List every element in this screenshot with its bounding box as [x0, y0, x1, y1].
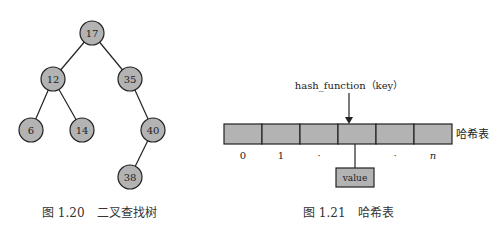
index-label: · — [317, 150, 320, 161]
bst-nodes — [19, 21, 165, 189]
index-label: · — [393, 150, 396, 161]
hash-cell-2 — [300, 124, 338, 144]
arrow-head-icon — [345, 117, 353, 124]
tree-node-label: 35 — [124, 74, 137, 85]
bst-edges — [31, 33, 153, 177]
hash-cell-3 — [338, 124, 376, 144]
figure-caption-bst: 图 1.20 二叉查找树 — [42, 203, 157, 220]
tree-node-label: 40 — [147, 125, 160, 136]
index-label: 0 — [240, 150, 246, 161]
tree-node-label: 14 — [76, 125, 89, 136]
value-label: value — [342, 173, 367, 183]
diagram-canvas: 17 12 35 6 14 40 38 hash_function（key） 哈… — [0, 0, 503, 227]
tree-node-label: 17 — [86, 28, 99, 39]
hash-cell-4 — [376, 124, 414, 144]
hash-function-label: hash_function（key） — [295, 80, 403, 92]
hash-cell-0 — [224, 124, 262, 144]
hash-table-cells — [224, 124, 452, 144]
tree-node-label: 12 — [47, 74, 60, 85]
index-label: n — [430, 150, 436, 161]
figure-caption-hash-table: 图 1.21 哈希表 — [303, 203, 394, 220]
hash-cell-5 — [414, 124, 452, 144]
hash-cell-1 — [262, 124, 300, 144]
tree-node-label: 6 — [28, 125, 34, 136]
hash-table-label: 哈希表 — [456, 127, 489, 141]
tree-node-label: 38 — [124, 172, 137, 183]
index-label: 1 — [278, 150, 284, 161]
